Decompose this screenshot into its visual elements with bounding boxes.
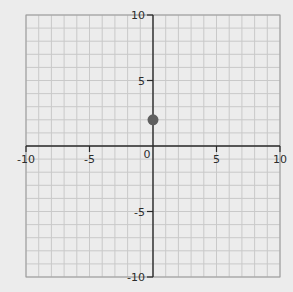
x-tick-label: 5 <box>213 153 220 166</box>
y-tick-label: 5 <box>138 75 145 88</box>
point-0-2 <box>148 114 159 125</box>
x-tick-label: -10 <box>17 153 35 166</box>
origin-label: 0 <box>144 148 151 161</box>
x-tick-label: 10 <box>273 153 287 166</box>
y-tick-label: -5 <box>134 206 145 219</box>
graph-canvas: -10-55100-10-5510 <box>0 0 293 292</box>
x-tick-label: -5 <box>84 153 95 166</box>
y-tick-label: 10 <box>131 9 145 22</box>
y-tick-label: -10 <box>127 271 145 284</box>
coordinate-plane: -10-55100-10-5510 <box>0 0 293 292</box>
